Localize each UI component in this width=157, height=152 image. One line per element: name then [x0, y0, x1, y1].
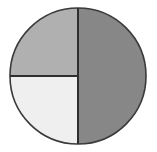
pie-chart-svg	[0, 0, 157, 152]
pie-chart-figure	[0, 0, 157, 152]
